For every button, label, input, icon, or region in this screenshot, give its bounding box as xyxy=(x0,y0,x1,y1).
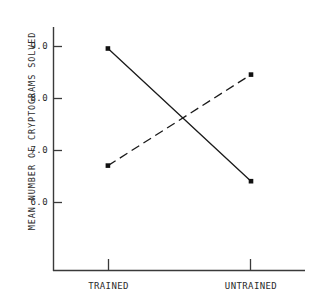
x-tick-label-untrained: UNTRAINED xyxy=(200,281,302,291)
series-solid-line xyxy=(108,49,251,182)
series-solid-marker-trained xyxy=(106,46,111,51)
chart-figure: 9.0 8.0 7.0 6.0 TRAINED UNTRAINED MEAN N… xyxy=(0,0,323,308)
plot-canvas xyxy=(0,0,323,308)
series-dashed-marker-trained xyxy=(106,163,111,168)
series-solid-marker-untrained xyxy=(249,179,254,184)
y-axis-title: MEAN NUMBER OF CRYPTOGRAMS SOLVED xyxy=(27,27,37,235)
series-dashed-line xyxy=(108,75,251,166)
series-dashed-marker-untrained xyxy=(249,72,254,77)
x-tick-label-trained: TRAINED xyxy=(60,281,157,291)
